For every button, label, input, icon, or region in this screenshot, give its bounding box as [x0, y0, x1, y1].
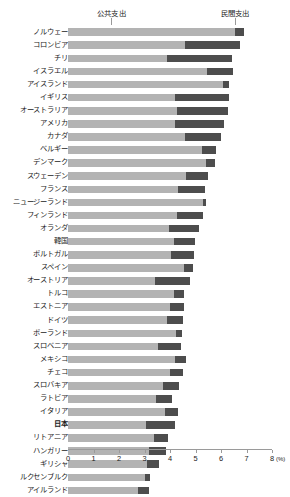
legend-item-private: 民間支出: [221, 7, 250, 18]
bar-segment-private: [185, 133, 221, 141]
bar-row-label: スロバキア: [0, 380, 68, 390]
axis-tick-label: 5: [193, 454, 197, 463]
stacked-bar: [68, 264, 193, 272]
bar-segment-private: [167, 316, 183, 324]
bar-segment-private: [154, 434, 168, 442]
bar-row: ベルギー: [0, 144, 290, 157]
bar-segment-private: [185, 41, 240, 49]
bar-row: スロベニア: [0, 340, 290, 353]
stacked-bar: [68, 251, 194, 259]
stacked-bar: [68, 41, 240, 49]
stacked-bar: [68, 94, 229, 102]
bar-segment-public: [68, 212, 177, 220]
axis-tick-label: 1: [91, 454, 95, 463]
bar-segment-private: [156, 395, 172, 403]
bar-segment-private: [146, 421, 175, 429]
bar-segment-public: [68, 343, 158, 351]
axis-tick-label: 0: [66, 454, 70, 463]
bar-row-label: オーストリア: [0, 275, 68, 285]
bar-row-label: アメリカ: [0, 118, 68, 128]
bar-row: スロバキア: [0, 380, 290, 393]
bar-row-label: デンマーク: [0, 157, 68, 167]
bar-segment-public: [68, 172, 186, 180]
bar-row: カナダ: [0, 131, 290, 144]
chart-legend: 公共支出 民間支出: [0, 6, 290, 28]
stacked-bar: [68, 120, 224, 128]
bar-row-label: リトアニア: [0, 432, 68, 442]
bar-segment-public: [68, 94, 175, 102]
bar-segment-public: [68, 408, 165, 416]
stacked-bar: [68, 159, 215, 167]
bar-segment-public: [68, 186, 178, 194]
bar-row: 韓国: [0, 236, 290, 249]
bar-segment-private: [138, 487, 149, 495]
stacked-bar: [68, 225, 199, 233]
bar-row: ドイツ: [0, 314, 290, 327]
bar-row-label: 韓国: [0, 236, 68, 246]
bar-segment-private: [206, 159, 215, 167]
bar-row: スペイン: [0, 262, 290, 275]
bar-segment-public: [68, 225, 169, 233]
bar-row-label: ドイツ: [0, 315, 68, 325]
bar-segment-public: [68, 199, 203, 207]
bar-row-label: スロベニア: [0, 341, 68, 351]
bar-segment-private: [158, 343, 181, 351]
bar-segment-private: [171, 251, 194, 259]
bar-row: エストニア: [0, 301, 290, 314]
stacked-bar: [68, 487, 149, 495]
stacked-bar: [68, 133, 221, 141]
bar-segment-public: [68, 133, 185, 141]
bar-segment-public: [68, 421, 146, 429]
bar-row-label: イギリス: [0, 92, 68, 102]
bar-segment-private: [170, 303, 184, 311]
bar-segment-public: [68, 434, 154, 442]
bar-segment-private: [186, 172, 208, 180]
bar-row-label: カナダ: [0, 131, 68, 141]
bar-segment-private: [176, 330, 182, 338]
bar-segment-private: [170, 369, 183, 377]
stacked-bar: [68, 172, 208, 180]
stacked-bar: [68, 238, 195, 246]
bar-segment-public: [68, 487, 138, 495]
bar-row-label: オーストラリア: [0, 105, 68, 115]
legend-pointer-public: [111, 18, 112, 25]
stacked-bar: [68, 343, 181, 351]
bar-segment-public: [68, 146, 202, 154]
bar-segment-public: [68, 55, 167, 63]
bar-segment-public: [68, 290, 174, 298]
stacked-bar: [68, 146, 216, 154]
axis-tick-label: 2: [117, 454, 121, 463]
bar-segment-public: [68, 41, 185, 49]
bar-row: スウェーデン: [0, 170, 290, 183]
bar-row: ノルウェー: [0, 26, 290, 39]
bar-segment-private: [163, 382, 179, 390]
bar-segment-public: [68, 68, 207, 76]
stacked-bar: [68, 395, 172, 403]
stacked-bar: [68, 186, 205, 194]
bar-segment-private: [207, 68, 233, 76]
bar-segment-public: [68, 330, 176, 338]
bar-row-label: イスラエル: [0, 66, 68, 76]
bar-segment-private: [223, 81, 229, 89]
axis-tick-label: 6: [219, 454, 223, 463]
legend-label-public: 公共支出: [97, 7, 126, 18]
stacked-bar: [68, 81, 229, 89]
bar-row-label: ニュージーランド: [0, 197, 68, 207]
axis-tick-label: 3: [142, 454, 146, 463]
bar-segment-public: [68, 120, 175, 128]
bar-row: オーストラリア: [0, 105, 290, 118]
bar-segment-private: [235, 28, 244, 36]
stacked-bar: [68, 212, 203, 220]
bar-row-label: オランダ: [0, 223, 68, 233]
bar-row: イタリア: [0, 406, 290, 419]
bar-row: アイルランド: [0, 484, 290, 497]
bar-segment-public: [68, 264, 184, 272]
axis-tick: [196, 450, 197, 453]
bar-row: ポルトガル: [0, 249, 290, 262]
bar-row: ニュージーランド: [0, 196, 290, 209]
stacked-bar: [68, 28, 244, 36]
bar-row-label: チリ: [0, 53, 68, 63]
bar-row-label: ラトビア: [0, 393, 68, 403]
bar-row: オーストリア: [0, 275, 290, 288]
